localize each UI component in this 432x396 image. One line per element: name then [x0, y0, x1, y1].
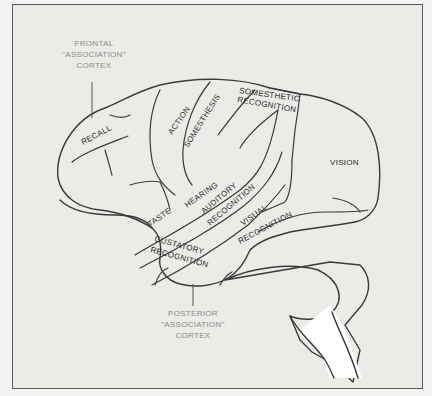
- svg-text:POSTERIOR: POSTERIOR: [168, 309, 218, 318]
- svg-text:CORTEX: CORTEX: [77, 61, 112, 70]
- region-action: ACTION: [166, 105, 192, 136]
- region-somesthesis: SOMESTHESIS: [182, 92, 222, 149]
- svg-text:FRONTAL: FRONTAL: [75, 39, 114, 48]
- frontal-association-cortex-label: FRONTAL "ASSOCIATION" CORTEX: [62, 39, 126, 70]
- posterior-association-cortex-label: POSTERIOR "ASSOCIATION" CORTEX: [161, 309, 225, 340]
- brain-diagram: FRONTAL "ASSOCIATION" CORTEX POSTERIOR "…: [0, 0, 432, 396]
- svg-text:"ASSOCIATION": "ASSOCIATION": [62, 50, 126, 59]
- cerebral-hemisphere: [58, 79, 380, 286]
- sulci: [72, 82, 368, 285]
- region-vision: VISION: [330, 158, 359, 167]
- svg-text:CORTEX: CORTEX: [176, 331, 211, 340]
- svg-text:"ASSOCIATION": "ASSOCIATION": [161, 320, 225, 329]
- region-taste: TASTE: [146, 206, 173, 229]
